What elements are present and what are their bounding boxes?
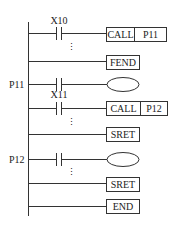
- rung-6: [28, 153, 139, 167]
- instruction-label: CALL: [107, 29, 133, 40]
- contact-label: X10: [50, 15, 67, 26]
- coil-ellipse: [107, 153, 139, 167]
- ellipsis: ⋮: [67, 42, 76, 52]
- ladder-diagram: X10 CALL P11 ⋮ FEND P11 X11 CALL P12 ⋮ S…: [0, 0, 182, 230]
- ellipsis: ⋮: [67, 167, 76, 177]
- pointer-label: P11: [143, 29, 158, 40]
- instruction-label: FEND: [110, 57, 136, 68]
- instruction-label: SRET: [111, 179, 135, 190]
- instruction-label: CALL: [110, 103, 136, 114]
- coil-ellipse: [107, 78, 139, 92]
- pointer-tag: P12: [9, 154, 25, 165]
- instruction-label: END: [113, 201, 134, 212]
- rung-3: [28, 78, 139, 92]
- pointer-tag: P11: [9, 79, 24, 90]
- instruction-label: SRET: [111, 129, 135, 140]
- contact-label: X11: [51, 89, 68, 100]
- pointer-label: P12: [146, 103, 162, 114]
- ellipsis: ⋮: [67, 117, 76, 127]
